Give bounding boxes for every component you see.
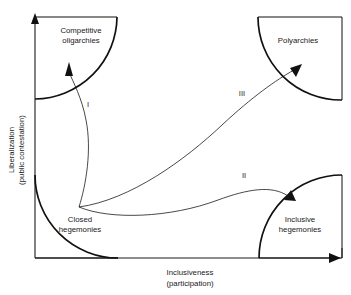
path-II-arrowhead-icon	[284, 190, 296, 201]
y-axis-label-group: Liberalization (public contestation)	[7, 115, 26, 185]
region-label-inclusive-hegemonies-line1: Inclusive	[285, 215, 315, 224]
region-label-competitive-oligarchies-line2: oligarchies	[62, 36, 99, 45]
polyarchies-arc	[258, 17, 342, 100]
region-label-closed-hegemonies-line2: hegemonies	[59, 225, 102, 234]
path-I-arrowhead-icon	[65, 62, 73, 76]
region-label-inclusive-hegemonies-line2: hegemonies	[279, 225, 322, 234]
path-II-curve	[79, 189, 288, 215]
path-III-arrowhead-icon	[290, 64, 302, 77]
polyarchies-box-edges	[258, 17, 342, 100]
path-III-curve	[79, 70, 294, 207]
x-axis-label-line2: (participation)	[166, 279, 214, 288]
dahl-typology-figure: Competitive oligarchies Polyarchies Clos…	[0, 0, 351, 295]
x-axis-label-line1: Inclusiveness	[167, 268, 214, 277]
y-axis-label-line1: Liberalization	[7, 127, 16, 173]
path-label-II: II	[242, 171, 246, 180]
path-label-III: III	[239, 89, 245, 98]
region-label-polyarchies-line1: Polyarchies	[278, 36, 318, 45]
region-label-competitive-oligarchies-line1: Competitive	[60, 26, 101, 35]
region-label-closed-hegemonies-line1: Closed	[68, 215, 92, 224]
path-label-I: I	[87, 100, 89, 109]
y-axis-arrowhead-icon	[31, 13, 39, 24]
path-I-curve	[69, 72, 88, 207]
y-axis-label-line2: (public contestation)	[17, 115, 26, 185]
diagram-root: Competitive oligarchies Polyarchies Clos…	[0, 0, 351, 295]
